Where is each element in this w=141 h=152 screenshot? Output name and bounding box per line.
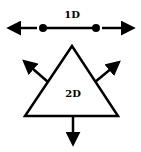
arrow-up-right-icon [95, 63, 118, 82]
label-2d: 2D [65, 89, 81, 99]
label-1d: 1D [64, 10, 80, 20]
arrow-up-left-icon [25, 62, 48, 82]
endpoint-dot [92, 24, 100, 32]
endpoint-dot [39, 24, 47, 32]
one-d-group [10, 24, 132, 32]
diagram-canvas [0, 0, 141, 152]
triangle-shape [25, 46, 118, 116]
